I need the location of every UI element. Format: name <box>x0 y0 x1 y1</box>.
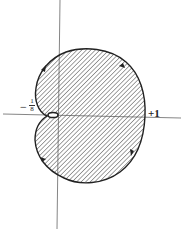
positive-intercept-label: +1 <box>148 108 160 119</box>
fraction-denominator: 8 <box>29 106 35 113</box>
negative-intercept-sign: − <box>20 101 27 113</box>
inner-loop <box>48 112 58 117</box>
negative-intercept-fraction: 1 8 <box>29 98 35 113</box>
